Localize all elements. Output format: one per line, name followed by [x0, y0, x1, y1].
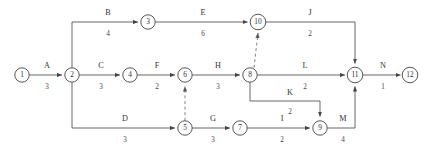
node-5-label: 5: [183, 123, 187, 132]
node-11[interactable]: 11: [347, 67, 363, 83]
node-12[interactable]: 12: [402, 67, 418, 83]
activity-duration-H: 3: [216, 83, 220, 91]
node-2-label: 2: [70, 70, 74, 79]
network-diagram: A 3 B 4 C 3 D 3 E 6 F 2 G 3 H 3 I 2 J 2 …: [0, 0, 427, 156]
node-9[interactable]: 9: [313, 121, 327, 135]
node-4-label: 4: [128, 70, 132, 79]
node-5[interactable]: 5: [178, 121, 192, 135]
activity-duration-B: 4: [106, 30, 110, 38]
activity-label-M: M: [339, 114, 347, 123]
activity-duration-D: 3: [123, 136, 127, 144]
node-1[interactable]: 1: [15, 68, 29, 82]
node-10-label: 10: [254, 17, 262, 26]
activity-label-F: F: [155, 61, 160, 70]
edge-K-8-9: [250, 82, 320, 116]
edge-J-10-11: [266, 22, 355, 64]
activity-label-K: K: [287, 88, 293, 97]
activity-label-B: B: [105, 8, 111, 17]
activity-label-D: D: [122, 114, 128, 123]
activity-label-G: G: [210, 114, 216, 123]
node-7[interactable]: 7: [233, 121, 247, 135]
node-4[interactable]: 4: [123, 68, 137, 82]
node-10[interactable]: 10: [250, 14, 266, 30]
activity-label-L: L: [302, 61, 307, 70]
activity-duration-A: 3: [45, 83, 49, 91]
node-12-label: 12: [406, 70, 414, 79]
node-3[interactable]: 3: [141, 15, 155, 29]
activity-duration-C: 3: [99, 83, 103, 91]
activity-label-J: J: [308, 8, 312, 17]
activity-label-A: A: [44, 61, 50, 70]
diagram-canvas: A 3 B 4 C 3 D 3 E 6 F 2 G 3 H 3 I 2 J 2 …: [0, 0, 427, 156]
activity-label-N: N: [380, 61, 386, 70]
node-1-label: 1: [20, 70, 24, 79]
activity-label-H: H: [215, 61, 221, 70]
edges-layer: [29, 22, 400, 128]
node-3-label: 3: [146, 17, 150, 26]
activity-duration-K: 2: [288, 108, 292, 116]
edge-B-2-3: [72, 22, 138, 68]
activity-labels-layer: A 3 B 4 C 3 D 3 E 6 F 2 G 3 H 3 I 2 J 2 …: [44, 8, 386, 144]
node-9-label: 9: [318, 123, 322, 132]
activity-duration-F: 2: [155, 83, 159, 91]
activity-label-E: E: [200, 8, 205, 17]
activity-label-C: C: [98, 61, 104, 70]
node-11-label: 11: [351, 70, 358, 79]
node-7-label: 7: [238, 123, 242, 132]
activity-duration-N: 1: [381, 83, 385, 91]
node-8-label: 8: [248, 70, 252, 79]
node-2[interactable]: 2: [65, 68, 79, 82]
activity-duration-G: 3: [211, 136, 215, 144]
activity-duration-L: 2: [303, 83, 307, 91]
dummy-edge-8-10: [254, 33, 258, 68]
node-8[interactable]: 8: [243, 68, 257, 82]
activity-duration-E: 6: [201, 30, 205, 38]
activity-duration-M: 4: [341, 136, 345, 144]
node-6-label: 6: [183, 70, 187, 79]
node-6[interactable]: 6: [178, 68, 192, 82]
activity-label-I: I: [281, 114, 284, 123]
activity-duration-J: 2: [308, 30, 312, 38]
activity-duration-I: 2: [280, 136, 284, 144]
